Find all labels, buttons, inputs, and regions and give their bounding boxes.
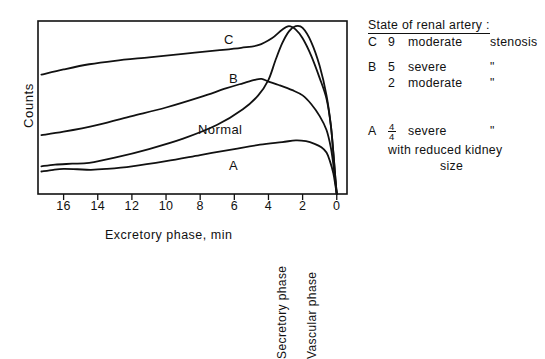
curve-label-a: A — [229, 158, 238, 173]
curve-label-b: B — [229, 71, 238, 86]
plot-frame — [38, 21, 347, 194]
legend-desc-a-line3: size — [368, 158, 544, 174]
legend-suffix-c: stenosis — [490, 34, 538, 50]
legend-ditto-b-2: " — [490, 75, 495, 91]
legend: State of renal artery : C 9 moderate ste… — [368, 18, 544, 174]
secretory-phase-label: Secretory phase — [275, 266, 289, 359]
legend-fraction-numerator-a: 4 — [388, 122, 396, 131]
legend-fraction-a: 4 4 — [388, 123, 408, 142]
x-tick-label-8: 8 — [188, 199, 212, 213]
x-tick-label-4: 4 — [256, 199, 280, 213]
legend-row-c: C 9 moderate stenosis — [368, 34, 544, 50]
legend-desc-b-1: severe — [408, 59, 490, 75]
legend-key-b: B — [368, 59, 388, 75]
legend-key-a: A — [368, 123, 388, 139]
vascular-phase-label: Vascular phase — [305, 272, 319, 359]
legend-desc-a-line2: with reduced kidney — [368, 142, 544, 158]
legend-title: State of renal artery : — [368, 18, 490, 34]
x-tick-label-2: 2 — [291, 199, 315, 213]
legend-spacer — [368, 50, 544, 59]
legend-row-b-2: 2 moderate " — [368, 75, 544, 91]
x-tick-label-0: 0 — [325, 199, 349, 213]
legend-fraction-denominator-a: 4 — [388, 131, 396, 141]
legend-ditto-a: " — [490, 123, 495, 139]
legend-desc-b-2: moderate — [408, 75, 490, 91]
legend-count-b-1: 5 — [388, 59, 408, 75]
legend-desc-a: severe — [408, 123, 490, 139]
legend-spacer-large — [368, 91, 544, 123]
legend-key-c: C — [368, 34, 388, 50]
legend-count-c: 9 — [388, 34, 408, 50]
curve-label-normal: Normal — [198, 122, 242, 137]
x-tick-label-14: 14 — [86, 199, 110, 213]
legend-row-a: A 4 4 severe " — [368, 123, 544, 142]
curve-label-c: C — [224, 32, 234, 47]
x-axis-title: Excretory phase, min — [105, 228, 232, 242]
x-tick-label-16: 16 — [52, 199, 76, 213]
x-tick-label-6: 6 — [222, 199, 246, 213]
legend-row-b-1: B 5 severe " — [368, 59, 544, 75]
y-axis-title: Counts — [21, 61, 36, 151]
x-tick-label-12: 12 — [120, 199, 144, 213]
legend-count-b-2: 2 — [388, 75, 408, 91]
curve-normal — [41, 26, 336, 194]
legend-desc-c: moderate — [408, 34, 490, 50]
legend-ditto-b-1: " — [490, 59, 495, 75]
curve-a — [41, 140, 336, 194]
x-tick-label-10: 10 — [154, 199, 178, 213]
